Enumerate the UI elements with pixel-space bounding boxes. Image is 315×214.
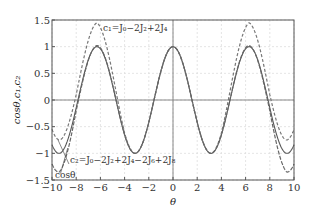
y-tick-label: −1: [35, 148, 50, 159]
x-tick-label: −4: [117, 182, 132, 193]
x-tick-label: −6: [93, 182, 108, 193]
y-tick-label: −1.5: [26, 175, 50, 186]
x-tick-label: 10: [288, 182, 301, 193]
x-tick-label: −8: [69, 182, 84, 193]
x-axis-ticks: −10−8−6−4−20246810: [41, 177, 300, 193]
y-tick-label: 1.5: [34, 15, 50, 26]
x-tick-label: 2: [194, 182, 200, 193]
annotation-cos: cosθ: [55, 170, 76, 180]
y-tick-label: 0: [44, 95, 50, 106]
y-axis-ticks: −1.5−1−0.500.511.5: [26, 15, 55, 186]
x-tick-label: 8: [267, 182, 273, 193]
chart: −10−8−6−4−20246810 −1.5−1−0.500.511.5 θ …: [0, 0, 315, 214]
y-tick-label: 1: [44, 41, 50, 52]
y-tick-label: 0.5: [34, 68, 50, 79]
y-tick-label: −0.5: [26, 121, 50, 132]
x-tick-label: 0: [170, 182, 176, 193]
x-tick-label: 6: [242, 182, 248, 193]
x-tick-label: −2: [141, 182, 156, 193]
annotation-c1: c₁=J₀−2J₂+2J₄: [103, 23, 168, 33]
x-tick-label: 4: [218, 182, 224, 193]
x-axis-label: θ: [170, 196, 176, 207]
y-axis-label: cosθ,c₁,c₂: [11, 76, 22, 124]
annotation-c2: c₂=J₀−2J₂+2J₄−2J₆+2J₈: [70, 155, 176, 165]
